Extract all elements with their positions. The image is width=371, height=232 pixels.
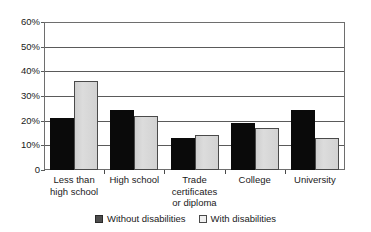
bar-with-disabilities	[255, 128, 279, 170]
y-axis-tick-label: 50%	[0, 42, 40, 52]
x-axis-label-line: certificates	[158, 186, 230, 198]
bar-without-disabilities	[291, 110, 315, 170]
legend-item: Without disabilities	[95, 213, 186, 224]
bar-with-disabilities	[195, 135, 219, 170]
x-axis-label-line: or diploma	[158, 197, 230, 209]
bar-with-disabilities	[74, 81, 98, 170]
legend-label: Without disabilities	[107, 213, 186, 224]
x-axis-category-labels: Less thanhigh schoolHigh schoolTradecert…	[44, 174, 345, 216]
y-axis-tick-mark	[41, 170, 45, 171]
x-axis-label-line: high school	[38, 186, 110, 198]
chart-legend: Without disabilitiesWith disabilities	[0, 213, 371, 224]
y-axis-tick-label: 40%	[0, 66, 40, 76]
y-axis-tick-label: 60%	[0, 17, 40, 27]
legend-item: With disabilities	[199, 213, 276, 224]
bar-group	[50, 22, 98, 170]
legend-label: With disabilities	[211, 213, 276, 224]
bar-without-disabilities	[110, 110, 134, 170]
y-axis-tick-label: 30%	[0, 91, 40, 101]
bar-chart: 60%50%40%30%20%10%0 Less thanhigh school…	[0, 0, 371, 232]
y-axis-tick-label: 10%	[0, 140, 40, 150]
x-axis-label-line: University	[279, 174, 351, 186]
bar-without-disabilities	[50, 118, 74, 170]
y-axis-tick-label: 0	[0, 165, 40, 175]
bar-group	[231, 22, 279, 170]
y-axis-tick-label: 20%	[0, 116, 40, 126]
bar-group	[171, 22, 219, 170]
bar-without-disabilities	[231, 123, 255, 170]
x-axis-label: University	[279, 174, 351, 186]
light-swatch-icon	[199, 215, 207, 223]
bar-group	[110, 22, 158, 170]
dark-swatch-icon	[95, 215, 103, 223]
bars-layer	[44, 22, 345, 170]
bar-group	[291, 22, 339, 170]
bar-with-disabilities	[315, 138, 339, 170]
bar-without-disabilities	[171, 138, 195, 170]
bar-with-disabilities	[134, 116, 158, 170]
